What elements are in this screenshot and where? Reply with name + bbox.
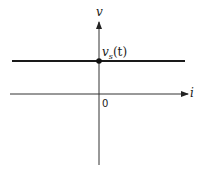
intercept-dot <box>96 58 102 64</box>
i-axis-label: i <box>190 86 194 100</box>
origin-label: 0 <box>102 98 108 109</box>
v-axis-label: v <box>96 5 103 19</box>
source-voltage-label: vs(t) <box>102 45 127 61</box>
label-argument: (t) <box>113 45 127 59</box>
vi-characteristic-diagram: v i 0 vs(t) <box>0 0 203 173</box>
